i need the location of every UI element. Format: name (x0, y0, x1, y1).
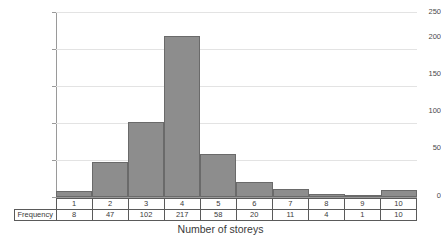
bar (128, 122, 164, 197)
plot-area (56, 12, 417, 197)
frequency-cell: 102 (128, 210, 164, 221)
frequency-cell: 10 (380, 210, 416, 221)
frequency-row-label: Frequency (15, 210, 57, 221)
bar (92, 162, 128, 197)
frequency-cell: 20 (236, 210, 272, 221)
bar (273, 189, 309, 197)
bar (164, 36, 200, 197)
frequency-table: 12345678910 Frequency 847102217582011411… (14, 198, 417, 221)
category-cell: 4 (164, 199, 200, 210)
bar (309, 194, 345, 197)
frequency-cell: 4 (308, 210, 344, 221)
bar-series (56, 12, 417, 197)
category-row-spacer (15, 199, 57, 210)
bar (200, 154, 236, 197)
category-cell: 9 (344, 199, 380, 210)
category-cell: 2 (92, 199, 128, 210)
bar (345, 195, 381, 197)
x-axis-title: Number of storeys (0, 223, 441, 235)
histogram-figure: 250 200 150 100 50 0 12345678910 Frequen… (0, 0, 441, 244)
category-cell: 10 (380, 199, 416, 210)
bar (236, 182, 272, 197)
category-cell: 1 (56, 199, 92, 210)
table-row-frequencies: Frequency 8471022175820114110 (15, 210, 417, 221)
category-cell: 6 (236, 199, 272, 210)
bar (381, 190, 417, 197)
category-cell: 3 (128, 199, 164, 210)
category-cell: 8 (308, 199, 344, 210)
category-cell: 5 (200, 199, 236, 210)
frequency-cell: 1 (344, 210, 380, 221)
category-cell: 7 (272, 199, 308, 210)
frequency-cell: 58 (200, 210, 236, 221)
frequency-cell: 47 (92, 210, 128, 221)
frequency-cell: 11 (272, 210, 308, 221)
bar (56, 191, 92, 197)
frequency-cell: 8 (56, 210, 92, 221)
table-row-categories: 12345678910 (15, 199, 417, 210)
frequency-cell: 217 (164, 210, 200, 221)
